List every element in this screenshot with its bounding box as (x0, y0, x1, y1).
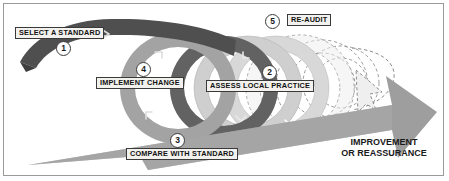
outcome-text: IMPROVEMENT OR REASSURANCE (330, 137, 438, 159)
stage-number-2: 2 (262, 65, 277, 80)
stage-label-re-audit: RE-AUDIT (287, 14, 331, 26)
stage-label-implement-change: IMPLEMENT CHANGE (96, 77, 184, 89)
stage-label-assess-local-practice: ASSESS LOCAL PRACTICE (206, 80, 314, 92)
stage-number-1: 1 (56, 41, 71, 56)
stage-number-5: 5 (265, 14, 280, 29)
outcome-line-2: OR REASSURANCE (330, 148, 438, 159)
outcome-line-1: IMPROVEMENT (330, 137, 438, 148)
stage-number-3: 3 (170, 133, 185, 148)
stage-label-select-a-standard: SELECT A STANDARD (15, 27, 104, 39)
stage-number-4: 4 (136, 62, 151, 77)
audit-cycle-figure: SELECT A STANDARD 1 IMPLEMENT CHANGE 4 C… (0, 0, 449, 181)
stage-label-compare-with-standard: COMPARE WITH STANDARD (126, 148, 238, 160)
